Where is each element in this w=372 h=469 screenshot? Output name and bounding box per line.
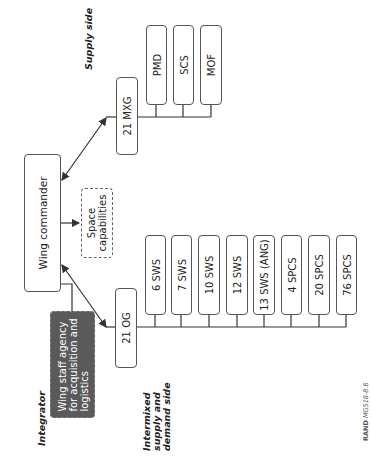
figure-credit: RAND MG518-8.6 (362, 382, 370, 441)
unit-box-scs: SCS (173, 25, 194, 105)
space-capabilities-line2: capabilities (97, 195, 108, 252)
unit-label: 4 SPCS (286, 257, 297, 292)
unit-box-mof: MOF (200, 25, 222, 105)
unit-box-4-spcs: 4 SPCS (281, 235, 302, 315)
wing-staff-line1: Wing staff agency (56, 318, 67, 411)
unit-label: 6 SWS (150, 259, 161, 291)
unit-box-10-sws: 10 SWS (198, 235, 220, 315)
unit-label: 7 SWS (176, 259, 187, 291)
mxg-box: 21 MXG (116, 77, 138, 155)
unit-box-6-sws: 6 SWS (145, 235, 166, 315)
credit-id: MG518-8.6 (362, 382, 370, 418)
intermixed-label: Intermixed supply and demand side (142, 382, 172, 451)
unit-box-pmd: PMD (146, 25, 167, 105)
space-capabilities-box: Space capabilities (81, 188, 113, 258)
mxg-label: 21 MXG (122, 96, 133, 135)
space-capabilities-line1: Space (86, 195, 97, 252)
unit-label: 12 SWS (232, 256, 243, 295)
unit-box-12-sws: 12 SWS (226, 235, 248, 315)
integrator-label: Integrator (37, 391, 47, 446)
unit-box-7-sws: 7 SWS (171, 235, 192, 315)
unit-box-13-sws-ang: 13 SWS (ANG) (253, 235, 275, 315)
wing-commander-box: Wing commander (24, 154, 61, 292)
unit-box-76-spcs: 76 SPCS (336, 235, 357, 315)
unit-label: 10 SWS (204, 256, 215, 295)
unit-box-20-spcs: 20 SPCS (308, 235, 330, 315)
unit-label: 13 SWS (ANG) (259, 239, 270, 311)
credit-prefix: RAND (362, 420, 370, 441)
wing-staff-agency-box: Wing staff agency for acquisition and lo… (50, 311, 95, 418)
unit-label: PMD (151, 54, 162, 76)
unit-label: MOF (206, 54, 217, 76)
unit-label: 20 SPCS (314, 254, 325, 296)
supply-side-label: Supply side (84, 8, 94, 70)
intermixed-line3: demand side (162, 382, 172, 451)
wing-commander-label: Wing commander (37, 177, 48, 270)
unit-label: SCS (178, 55, 189, 75)
og-label: 21 OG (121, 312, 132, 344)
og-box: 21 OG (115, 288, 137, 368)
wing-staff-line3: logistics (78, 318, 89, 411)
wing-staff-line2: for acquisition and (67, 318, 78, 411)
unit-label: 76 SPCS (341, 254, 352, 296)
